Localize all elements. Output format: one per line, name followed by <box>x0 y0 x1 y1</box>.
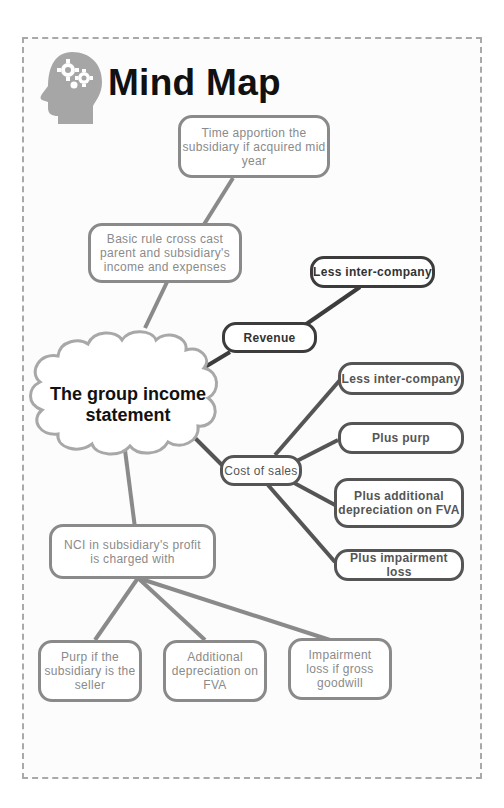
node-nci: NCI in subsidiary's profit is charged wi… <box>49 524 216 579</box>
node-cost-of-sales: Cost of sales <box>220 455 302 486</box>
node-basic-rule: Basic rule cross cast parent and subsidi… <box>88 223 242 283</box>
node-nci-purp: Purp if the subsidiary is the seller <box>38 640 142 702</box>
central-topic: The group income statement <box>38 384 218 426</box>
node-nci-additional-depreciation: Additional depreciation on FVA <box>163 640 267 702</box>
node-time-apportion: Time apportion the subsidiary if acquire… <box>178 115 330 178</box>
node-cos-additional-depreciation: Plus additional depreciation on FVA <box>334 478 464 528</box>
node-cos-impairment-loss: Plus impairment loss <box>334 549 464 581</box>
node-revenue-less-intercompany: Less inter-company <box>310 256 435 288</box>
node-revenue: Revenue <box>222 322 317 353</box>
node-cos-less-intercompany: Less inter-company <box>338 362 464 395</box>
node-nci-impairment-loss: Impairment loss if gross goodwill <box>288 638 392 700</box>
node-cos-plus-purp: Plus purp <box>338 422 464 454</box>
